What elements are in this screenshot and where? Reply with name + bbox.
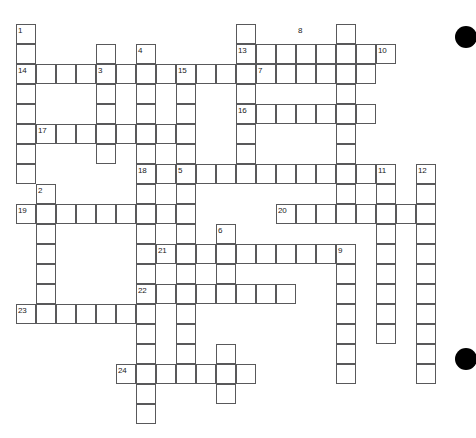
crossword-cell[interactable] xyxy=(376,44,396,64)
crossword-cell[interactable] xyxy=(316,204,336,224)
crossword-cell[interactable] xyxy=(36,184,56,204)
crossword-cell[interactable] xyxy=(356,104,376,124)
crossword-cell[interactable] xyxy=(16,164,36,184)
crossword-cell[interactable] xyxy=(356,64,376,84)
crossword-cell[interactable] xyxy=(16,144,36,164)
crossword-cell[interactable] xyxy=(256,44,276,64)
crossword-cell[interactable] xyxy=(256,244,276,264)
crossword-cell[interactable] xyxy=(236,64,256,84)
crossword-cell[interactable] xyxy=(196,364,216,384)
crossword-cell[interactable] xyxy=(336,284,356,304)
crossword-cell[interactable] xyxy=(336,144,356,164)
crossword-cell[interactable] xyxy=(36,244,56,264)
crossword-cell[interactable] xyxy=(96,204,116,224)
crossword-cell[interactable] xyxy=(216,264,236,284)
crossword-cell[interactable] xyxy=(176,164,196,184)
crossword-cell[interactable] xyxy=(116,364,136,384)
crossword-cell[interactable] xyxy=(136,304,156,324)
crossword-cell[interactable] xyxy=(136,164,156,184)
crossword-cell[interactable] xyxy=(116,204,136,224)
crossword-cell[interactable] xyxy=(36,64,56,84)
crossword-cell[interactable] xyxy=(216,284,236,304)
crossword-cell[interactable] xyxy=(416,244,436,264)
crossword-cell[interactable] xyxy=(296,104,316,124)
crossword-cell[interactable] xyxy=(336,324,356,344)
crossword-cell[interactable] xyxy=(256,284,276,304)
crossword-cell[interactable] xyxy=(16,44,36,64)
crossword-cell[interactable] xyxy=(276,204,296,224)
crossword-cell[interactable] xyxy=(216,244,236,264)
crossword-cell[interactable] xyxy=(136,64,156,84)
crossword-cell[interactable] xyxy=(156,124,176,144)
crossword-cell[interactable] xyxy=(276,164,296,184)
crossword-cell[interactable] xyxy=(356,44,376,64)
crossword-cell[interactable] xyxy=(356,164,376,184)
crossword-cell[interactable] xyxy=(156,204,176,224)
crossword-cell[interactable] xyxy=(16,24,36,44)
crossword-cell[interactable] xyxy=(56,64,76,84)
crossword-cell[interactable] xyxy=(156,284,176,304)
crossword-cell[interactable] xyxy=(176,144,196,164)
crossword-cell[interactable] xyxy=(296,204,316,224)
crossword-cell[interactable] xyxy=(136,284,156,304)
crossword-cell[interactable] xyxy=(136,204,156,224)
crossword-cell[interactable] xyxy=(176,204,196,224)
crossword-cell[interactable] xyxy=(236,104,256,124)
crossword-cell[interactable] xyxy=(236,164,256,184)
crossword-cell[interactable] xyxy=(16,124,36,144)
crossword-cell[interactable] xyxy=(176,344,196,364)
crossword-cell[interactable] xyxy=(236,84,256,104)
crossword-cell[interactable] xyxy=(336,164,356,184)
crossword-cell[interactable] xyxy=(176,124,196,144)
crossword-cell[interactable] xyxy=(236,144,256,164)
crossword-cell[interactable] xyxy=(216,364,236,384)
crossword-cell[interactable] xyxy=(36,304,56,324)
crossword-cell[interactable] xyxy=(376,204,396,224)
crossword-cell[interactable] xyxy=(336,364,356,384)
crossword-cell[interactable] xyxy=(176,264,196,284)
crossword-cell[interactable] xyxy=(416,204,436,224)
crossword-cell[interactable] xyxy=(396,204,416,224)
crossword-cell[interactable] xyxy=(136,384,156,404)
crossword-cell[interactable] xyxy=(96,64,116,84)
crossword-cell[interactable] xyxy=(56,124,76,144)
crossword-cell[interactable] xyxy=(196,244,216,264)
crossword-cell[interactable] xyxy=(176,324,196,344)
crossword-cell[interactable] xyxy=(36,264,56,284)
crossword-cell[interactable] xyxy=(236,284,256,304)
crossword-cell[interactable] xyxy=(316,164,336,184)
crossword-cell[interactable] xyxy=(196,164,216,184)
crossword-cell[interactable] xyxy=(276,104,296,124)
crossword-grid[interactable]: 123456789101112131415161718192021222324 xyxy=(0,0,476,438)
crossword-cell[interactable] xyxy=(376,244,396,264)
crossword-cell[interactable] xyxy=(136,224,156,244)
crossword-cell[interactable] xyxy=(136,404,156,424)
crossword-cell[interactable] xyxy=(96,144,116,164)
crossword-cell[interactable] xyxy=(136,324,156,344)
crossword-cell[interactable] xyxy=(56,204,76,224)
crossword-cell[interactable] xyxy=(116,304,136,324)
crossword-cell[interactable] xyxy=(256,64,276,84)
crossword-cell[interactable] xyxy=(216,384,236,404)
crossword-cell[interactable] xyxy=(96,84,116,104)
crossword-cell[interactable] xyxy=(336,344,356,364)
crossword-cell[interactable] xyxy=(236,244,256,264)
crossword-cell[interactable] xyxy=(176,364,196,384)
crossword-cell[interactable] xyxy=(156,244,176,264)
crossword-cell[interactable] xyxy=(236,24,256,44)
crossword-cell[interactable] xyxy=(136,244,156,264)
crossword-cell[interactable] xyxy=(176,84,196,104)
crossword-cell[interactable] xyxy=(136,144,156,164)
crossword-cell[interactable] xyxy=(356,204,376,224)
crossword-cell[interactable] xyxy=(176,224,196,244)
crossword-cell[interactable] xyxy=(376,164,396,184)
crossword-cell[interactable] xyxy=(276,244,296,264)
crossword-cell[interactable] xyxy=(336,44,356,64)
crossword-cell[interactable] xyxy=(336,124,356,144)
crossword-cell[interactable] xyxy=(16,204,36,224)
crossword-cell[interactable] xyxy=(296,164,316,184)
crossword-cell[interactable] xyxy=(216,224,236,244)
crossword-cell[interactable] xyxy=(336,24,356,44)
crossword-cell[interactable] xyxy=(136,104,156,124)
crossword-cell[interactable] xyxy=(196,284,216,304)
